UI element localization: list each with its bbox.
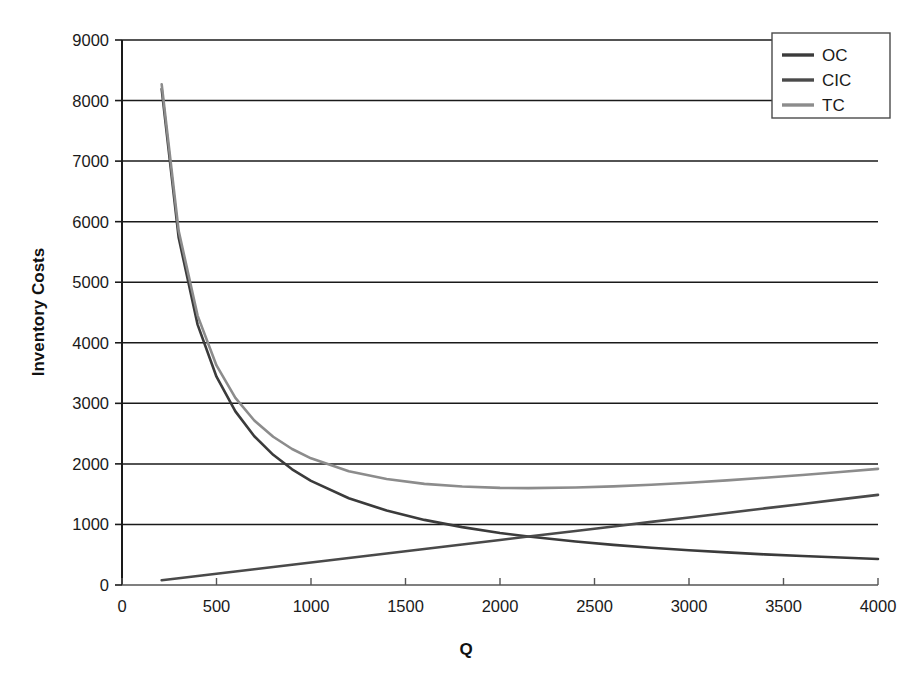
y-tick-label: 0 <box>100 576 109 594</box>
y-tick-label: 7000 <box>72 152 109 170</box>
chart-legend: OCCICTC <box>772 33 890 118</box>
y-tick-label: 2000 <box>72 455 109 473</box>
x-tick-label: 0 <box>117 597 126 615</box>
x-tick-label: 1500 <box>387 597 424 615</box>
y-tick-label: 6000 <box>72 213 109 231</box>
y-tick-label: 9000 <box>72 31 109 49</box>
y-tick-label: 8000 <box>72 92 109 110</box>
y-axis-title: Inventory Costs <box>29 248 48 376</box>
legend-label-tc: TC <box>822 96 845 115</box>
y-tick-label: 3000 <box>72 394 109 412</box>
x-tick-label: 3000 <box>671 597 708 615</box>
plot-background <box>122 40 878 585</box>
x-tick-label: 500 <box>203 597 231 615</box>
legend-label-oc: OC <box>822 46 848 65</box>
y-tick-label: 4000 <box>72 334 109 352</box>
x-tick-label: 1000 <box>293 597 330 615</box>
chart-figure: 0100020003000400050006000700080009000 05… <box>0 0 914 682</box>
x-axis-title: Q <box>459 640 472 659</box>
inventory-costs-line-chart: 0100020003000400050006000700080009000 05… <box>0 0 914 682</box>
x-tick-label: 2500 <box>576 597 613 615</box>
x-tick-label: 3500 <box>765 597 802 615</box>
y-tick-label: 5000 <box>72 273 109 291</box>
x-tick-label: 4000 <box>860 597 897 615</box>
x-tick-label: 2000 <box>482 597 519 615</box>
legend-label-cic: CIC <box>822 71 851 90</box>
plot-area <box>115 40 878 585</box>
y-tick-label: 1000 <box>72 515 109 533</box>
